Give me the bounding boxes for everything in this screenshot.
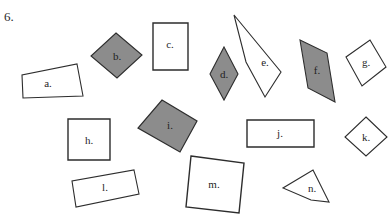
- shape-label-m: m.: [208, 178, 220, 190]
- shape-label-k: k.: [362, 131, 371, 143]
- shape-outline-n: [283, 170, 329, 202]
- shape-label-b: b.: [113, 50, 122, 62]
- shape-label-i: i.: [167, 119, 173, 131]
- shape-i[interactable]: i.: [138, 100, 197, 152]
- shape-label-n: n.: [308, 182, 317, 194]
- shape-label-d: d.: [220, 68, 229, 80]
- shape-j[interactable]: j.: [247, 120, 314, 147]
- shape-g[interactable]: g.: [346, 40, 386, 86]
- shape-label-g: g.: [362, 56, 371, 68]
- shape-label-j: j.: [276, 127, 283, 139]
- shape-outline-e: [234, 15, 281, 97]
- shape-outline-a: [22, 64, 83, 98]
- shape-label-a: a.: [44, 77, 52, 89]
- shape-k[interactable]: k.: [345, 117, 387, 156]
- shape-label-c: c.: [166, 38, 174, 50]
- shape-label-e: e.: [261, 56, 269, 68]
- shape-b[interactable]: b.: [91, 33, 142, 78]
- shape-a[interactable]: a.: [22, 64, 83, 98]
- shape-l[interactable]: l.: [72, 170, 139, 207]
- shape-h[interactable]: h.: [68, 119, 110, 160]
- shape-label-f: f.: [314, 64, 321, 76]
- geometry-worksheet-page: 6. a.b.c.d.e.f.g.h.i.j.k.l.m.n.: [0, 0, 390, 220]
- shape-m[interactable]: m.: [186, 156, 244, 213]
- shape-f[interactable]: f.: [300, 40, 335, 102]
- shape-c[interactable]: c.: [153, 23, 188, 70]
- shape-canvas: a.b.c.d.e.f.g.h.i.j.k.l.m.n.: [0, 0, 390, 220]
- shape-e[interactable]: e.: [234, 15, 281, 97]
- shape-d[interactable]: d.: [210, 47, 238, 100]
- shape-label-h: h.: [85, 134, 94, 146]
- shape-n[interactable]: n.: [283, 170, 329, 202]
- shape-label-l: l.: [102, 181, 108, 193]
